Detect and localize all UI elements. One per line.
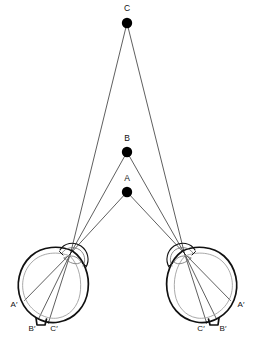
left-retinal-image-a-prime-label: A′ — [11, 300, 18, 309]
left-retinal-image-b-prime-label: B′ — [29, 324, 36, 333]
left-fovea-marker — [48, 322, 50, 324]
right-fovea-marker — [206, 322, 208, 324]
binocular-projection-diagram: C B A A′ B′ C′ A′ B′ C′ — [0, 0, 255, 338]
canvas-background — [0, 0, 255, 338]
object-point-c-label: C — [124, 3, 130, 13]
right-retinal-image-b-prime-label: B′ — [220, 324, 227, 333]
right-retinal-image-c-prime-label: C′ — [197, 324, 205, 333]
object-point-a-dot — [122, 187, 132, 197]
object-point-a-label: A — [124, 173, 130, 183]
right-retinal-image-a-prime-label: A′ — [238, 300, 245, 309]
object-point-b-label: B — [124, 133, 130, 143]
object-point-b-dot — [122, 147, 132, 157]
diagram-canvas: C B A A′ B′ C′ A′ B′ C′ — [0, 0, 255, 338]
left-retinal-image-c-prime-label: C′ — [50, 324, 58, 333]
object-point-c-dot — [122, 18, 132, 28]
